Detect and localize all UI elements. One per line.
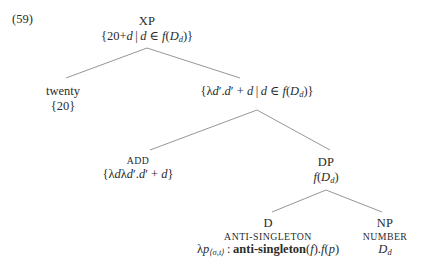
edge-xp-addp [147, 48, 240, 78]
node-denotation-xp: {20+d | d ∈ f(Dd)} [101, 29, 193, 44]
tree-node-d: D ANTI-SINGLETON λp⟨σ,t⟩ : anti-singleto… [197, 216, 339, 257]
edge-dp-np [326, 190, 382, 212]
node-label-d: D [197, 216, 339, 231]
tree-node-addbar: {λd′.d′ + d | d ∈ f(Dd)} [200, 84, 313, 99]
node-label-xp: XP [101, 14, 193, 29]
edge-dp-d [272, 190, 326, 212]
edge-xp-twenty [66, 48, 147, 78]
node-denotation-addbar: {λd′.d′ + d | d ∈ f(Dd)} [200, 84, 313, 99]
node-label-dp: DP [313, 155, 338, 170]
node-denotation-dp: f(Dd) [313, 170, 338, 185]
tree-node-add: ADD {λdλd′.d′ + d} [102, 155, 173, 181]
node-denotation-np: Dd [363, 242, 408, 257]
node-lexical-number: NUMBER [363, 231, 408, 243]
tree-node-twenty: twenty {20} [46, 84, 80, 114]
node-label-add: ADD [102, 155, 173, 167]
node-label-np: NP [363, 216, 408, 231]
node-denotation-twenty: {20} [46, 99, 80, 114]
node-denotation-d: λp⟨σ,t⟩ : anti-singleton(f).f(p) [197, 242, 339, 257]
edge-addp-add [150, 110, 257, 150]
node-label-twenty: twenty [46, 84, 80, 99]
tree-node-xp: XP {20+d | d ∈ f(Dd)} [101, 14, 193, 44]
node-lexical-anti-singleton: ANTI-SINGLETON [197, 231, 339, 243]
node-denotation-add: {λdλd′.d′ + d} [102, 167, 173, 182]
tree-node-dp: DP f(Dd) [313, 155, 338, 185]
edge-addp-dp [257, 110, 330, 150]
tree-node-np: NP NUMBER Dd [363, 216, 408, 257]
